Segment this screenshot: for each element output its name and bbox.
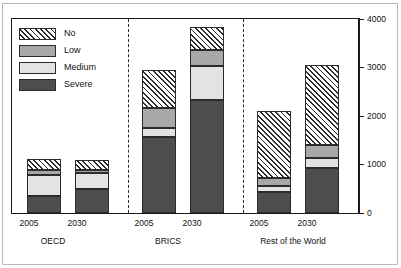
y-tick-3000 [359, 67, 364, 68]
legend-item-severe: Severe [19, 77, 115, 94]
bar-segment-no [75, 160, 109, 170]
group-label-brics: BRICS [138, 237, 198, 246]
bar-segment-severe [27, 196, 61, 213]
y-tick-1000 [359, 164, 364, 165]
y-label-0: 0 [367, 209, 372, 218]
bar-segment-severe [75, 189, 109, 213]
x-tick-brics-2030: 2030 [162, 219, 222, 228]
bar-segment-severe [142, 137, 176, 213]
legend-item-no: No [19, 26, 115, 43]
bar-segment-medium [142, 128, 176, 137]
bar-brics-2005 [142, 70, 176, 213]
bar-segment-medium [190, 66, 224, 100]
y-label-4000: 4000 [367, 15, 386, 24]
group-separator-brics-row [243, 19, 244, 213]
bar-segment-low [142, 108, 176, 128]
bar-segment-no [305, 65, 339, 145]
x-tick-row-2030: 2030 [277, 219, 337, 228]
legend-label-severe: Severe [64, 80, 93, 90]
bar-segment-low [305, 145, 339, 158]
bar-segment-severe [305, 168, 339, 213]
y-label-3000: 3000 [367, 63, 386, 72]
chart-legend: No Low Medium Severe [19, 26, 115, 94]
legend-swatch-medium-icon [19, 62, 56, 74]
bar-segment-no [190, 27, 224, 50]
bar-segment-no [142, 70, 176, 108]
y-tick-4000 [359, 19, 364, 20]
bar-segment-medium [75, 173, 109, 189]
legend-item-low: Low [19, 43, 115, 60]
bar-oecd-2030 [75, 160, 109, 213]
legend-item-medium: Medium [19, 60, 115, 77]
y-label-1000: 1000 [367, 160, 386, 169]
group-label-row: Rest of the World [238, 237, 348, 246]
bar-row-2030 [305, 65, 339, 213]
bar-segment-low [190, 50, 224, 66]
legend-swatch-low-icon [19, 45, 56, 57]
bar-segment-no [27, 159, 61, 170]
legend-swatch-severe-icon [19, 79, 56, 91]
bar-segment-low [257, 178, 291, 186]
y-tick-2000 [359, 116, 364, 117]
legend-label-medium: Medium [64, 63, 96, 73]
y-label-2000: 2000 [367, 112, 386, 121]
bar-segment-medium [305, 158, 339, 168]
bar-segment-severe [190, 100, 224, 213]
bar-row-2005 [257, 111, 291, 213]
legend-label-low: Low [64, 46, 81, 56]
group-label-oecd: OECD [23, 237, 83, 246]
bar-segment-medium [257, 186, 291, 192]
bar-oecd-2005 [27, 159, 61, 213]
bar-brics-2030 [190, 27, 224, 213]
bar-segment-no [257, 111, 291, 178]
legend-label-no: No [64, 29, 76, 39]
bar-segment-low [27, 170, 61, 175]
x-tick-oecd-2030: 2030 [47, 219, 107, 228]
chart-figure: 4000 3000 2000 1000 0 2005 2030 2005 203… [0, 0, 401, 268]
bar-segment-low [75, 170, 109, 173]
y-tick-0 [359, 213, 364, 214]
bar-segment-severe [257, 192, 291, 213]
bar-segment-medium [27, 175, 61, 196]
group-separator-oecd-brics [128, 19, 129, 213]
legend-swatch-no-icon [19, 28, 56, 40]
